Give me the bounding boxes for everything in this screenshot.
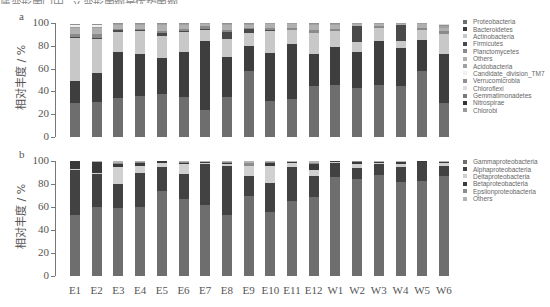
bar-segment	[92, 174, 102, 207]
bar-segment	[222, 57, 232, 97]
legend-swatch	[463, 64, 467, 68]
x-tick-label: E5	[151, 284, 173, 296]
bar-segment	[330, 85, 340, 137]
bar-segment	[265, 166, 275, 183]
stacked-bar	[330, 23, 340, 137]
x-tick-label: W3	[368, 284, 390, 296]
y-axis-tick	[51, 91, 55, 92]
y-tick-label: 80	[27, 177, 49, 189]
bar-segment	[439, 103, 449, 137]
y-axis-label: 相对丰度 / %	[12, 183, 28, 248]
bar-segment	[374, 85, 384, 137]
legend-label: Deltaproteobacteria	[473, 173, 530, 180]
bar-segment	[287, 167, 297, 202]
bar-segment	[439, 54, 449, 103]
legend: GammaproteobacteriaAlphaproteobacteriaDe…	[463, 158, 538, 202]
legend-label: Others	[473, 195, 493, 202]
bar-segment	[157, 191, 167, 276]
stacked-bar	[200, 23, 210, 137]
bar-segment	[287, 30, 297, 44]
bar-segment	[157, 58, 167, 93]
bar-segment	[244, 166, 254, 176]
stacked-bar	[70, 23, 80, 137]
stacked-bar	[92, 161, 102, 276]
legend-swatch	[463, 27, 467, 31]
bar-segment	[352, 26, 362, 42]
bar-segment	[309, 176, 319, 197]
stacked-bar	[352, 23, 362, 137]
x-tick-label: E2	[86, 284, 108, 296]
x-tick-label: E3	[107, 284, 129, 296]
bar-segment	[396, 182, 406, 276]
y-axis-tick	[51, 137, 55, 138]
legend-label: Epsilonproteobacteria	[473, 188, 536, 195]
bar-segment	[135, 166, 145, 173]
bar-segment	[179, 52, 189, 98]
y-tick-label: 40	[27, 223, 49, 235]
legend-item: Others	[463, 195, 538, 202]
bar-segment	[222, 39, 232, 57]
legend-swatch	[463, 79, 467, 83]
bar-segment	[135, 173, 145, 208]
legend-swatch	[463, 189, 467, 193]
bar-segment	[200, 30, 210, 41]
stacked-bar	[374, 23, 384, 137]
bar-segment	[352, 88, 362, 137]
bar-segment	[179, 199, 189, 276]
bar-segment	[92, 28, 102, 35]
legend-item: Planctomycetes	[463, 48, 545, 55]
stacked-bar	[244, 23, 254, 137]
legend-label: Proteobacteria	[473, 18, 515, 25]
y-axis-tick	[51, 69, 55, 70]
bar-segment	[417, 162, 427, 180]
legend-label: Nitrospirae	[473, 99, 504, 106]
bar-segment	[265, 31, 275, 53]
y-tick-label: 0	[27, 269, 49, 281]
stacked-bar	[92, 23, 102, 137]
bar-segment	[200, 110, 210, 137]
bar-segment	[113, 32, 123, 51]
y-tick-label: 60	[27, 62, 49, 74]
y-axis-tick	[51, 253, 55, 254]
bar-segment	[396, 41, 406, 48]
stacked-bar	[222, 23, 232, 137]
legend-item: Candidate_division_TM7	[463, 70, 545, 77]
x-tick-label: E6	[173, 284, 195, 296]
bar-segment	[287, 44, 297, 100]
x-tick-label: W4	[390, 284, 412, 296]
y-tick-label: 100	[27, 154, 49, 166]
x-tick-label: E8	[216, 284, 238, 296]
stacked-bar	[265, 23, 275, 137]
legend-item: Firmicutes	[463, 40, 545, 47]
bar-segment	[70, 81, 80, 103]
stacked-bar	[179, 23, 189, 137]
legend-swatch	[463, 197, 467, 201]
bar-segment	[396, 48, 406, 86]
truncated-caption-text: 属变形菌门中，γ-变形菌纲是优势菌纲	[0, 0, 260, 4]
bar-segment	[374, 28, 384, 42]
legend-item: Gammaproteobacteria	[463, 158, 538, 165]
bar-segment	[222, 166, 232, 215]
x-tick-label: E12	[303, 284, 325, 296]
stacked-bar	[309, 161, 319, 276]
y-axis-tick	[51, 230, 55, 231]
bar-segment	[179, 164, 189, 173]
legend-label: Chloroflexi	[473, 85, 504, 92]
bar-segment	[439, 166, 449, 176]
bar-segment	[113, 184, 123, 208]
bar-segment	[70, 103, 80, 137]
y-axis-tick	[51, 46, 55, 47]
bar-segment	[113, 208, 123, 276]
x-tick-label: E7	[194, 284, 216, 296]
legend-label: Gammaproteobacteria	[473, 158, 538, 165]
legend-label: Acidobacteria	[473, 63, 512, 70]
bar-segment	[222, 97, 232, 137]
legend-item: Deltaproteobacteria	[463, 173, 538, 180]
bar-segment	[113, 98, 123, 137]
bar-segment	[396, 167, 406, 182]
x-tick-label: E11	[281, 284, 303, 296]
legend-item: Others	[463, 55, 545, 62]
legend-label: Others	[473, 55, 493, 62]
stacked-bar	[439, 161, 449, 276]
legend: ProteobacteriaBacteroidetesActinobacteri…	[463, 18, 545, 114]
